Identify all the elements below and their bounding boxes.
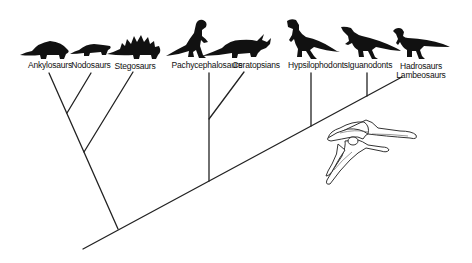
ceratopsian-silhouette-icon bbox=[202, 34, 271, 58]
pachycephalosaur-silhouette-icon bbox=[166, 20, 208, 58]
pelvis-illustration-icon bbox=[326, 120, 416, 184]
taxon-label-hypsilophodonts: Hypsilophodonts bbox=[288, 60, 348, 70]
stegosaur-silhouette-icon bbox=[107, 35, 160, 59]
taxon-label-lambeosaurs: Lambeosaurs bbox=[396, 70, 445, 80]
taxon-label-ankylosaurs: Ankylosaurs bbox=[28, 60, 72, 70]
main-trunk-line bbox=[83, 77, 402, 249]
ceratopsian-branch-line bbox=[209, 72, 244, 119]
ankylosaur-silhouette-icon bbox=[20, 41, 69, 59]
taxon-label-stegosaurs: Stegosaurs bbox=[115, 61, 156, 71]
stegosaur-branch-line bbox=[84, 72, 133, 152]
iguanodont-silhouette-icon bbox=[341, 27, 401, 59]
nodosaur-silhouette-icon bbox=[70, 44, 111, 56]
taxon-label-nodosaurs: Nodosaurs bbox=[71, 60, 110, 70]
ankylosaur-branch-line bbox=[49, 73, 118, 229]
taxon-label-ceratopsians: Ceratopsians bbox=[232, 60, 280, 70]
taxon-label-iguanodonts: Iguanodonts bbox=[348, 60, 393, 70]
nodosaur-branch-line bbox=[67, 73, 91, 113]
hypsilophodont-silhouette-icon bbox=[287, 19, 340, 59]
cladogram bbox=[0, 0, 472, 263]
hadrosaur-silhouette-icon bbox=[393, 28, 450, 59]
